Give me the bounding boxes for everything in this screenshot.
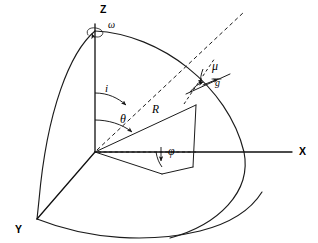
mu-label: μ bbox=[211, 59, 218, 73]
orbit-dashed-line bbox=[97, 12, 244, 150]
ground-track-group bbox=[184, 58, 230, 104]
r-vector-line bbox=[95, 105, 196, 152]
ground-track-line bbox=[186, 74, 230, 94]
g-label: g bbox=[215, 77, 220, 88]
inclination-arc bbox=[95, 93, 126, 105]
omega-label: ω bbox=[108, 19, 115, 30]
radius-vector-group bbox=[95, 105, 196, 174]
label-group: Z X Y ω i θ R μ g φ bbox=[15, 3, 306, 235]
orbit-normal-dashed-group bbox=[97, 12, 244, 150]
r-vertical-drop-line bbox=[193, 105, 196, 167]
right-meridian-arc bbox=[95, 31, 245, 238]
diagram-figure: Z X Y ω i θ R μ g φ bbox=[0, 0, 318, 243]
mu-reference-dashed-line bbox=[184, 58, 215, 104]
theta-angle-group bbox=[95, 120, 132, 132]
theta-label: θ bbox=[120, 112, 126, 126]
radius-label: R bbox=[151, 103, 159, 115]
phi-angle-group bbox=[98, 147, 196, 167]
y-axis-line bbox=[37, 152, 95, 219]
inclination-angle-group bbox=[95, 93, 126, 105]
r-projection-line bbox=[95, 152, 162, 174]
inclination-label: i bbox=[105, 82, 108, 94]
projection-base-line bbox=[162, 167, 193, 174]
theta-arc bbox=[95, 120, 132, 132]
left-meridian-arc bbox=[37, 31, 95, 219]
axis-group bbox=[37, 24, 292, 219]
x-axis-label: X bbox=[299, 145, 306, 157]
z-axis-label: Z bbox=[100, 3, 107, 15]
y-axis-label: Y bbox=[15, 223, 22, 235]
sphere-octant-outline bbox=[37, 31, 262, 238]
orbital-geometry-svg: Z X Y ω i θ R μ g φ bbox=[0, 0, 318, 243]
equator-arc bbox=[37, 192, 262, 238]
phi-label: φ bbox=[168, 144, 175, 158]
